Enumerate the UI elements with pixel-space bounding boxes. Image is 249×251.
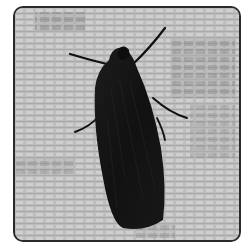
moth-photo: [15, 8, 239, 240]
photo-frame: [13, 6, 241, 242]
